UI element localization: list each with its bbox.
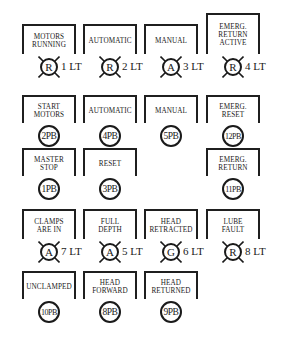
pushbutton[interactable]: 5PB <box>160 125 182 147</box>
pushbutton[interactable]: 4PB <box>99 125 121 147</box>
nameplate-label: CLAMPS ARE IN <box>34 218 63 234</box>
nameplate-frame: EMERG. RETURN ACTIVE <box>206 13 260 54</box>
pushbutton[interactable]: 10PB <box>38 301 60 323</box>
nameplate-label: FULL DEPTH <box>98 218 122 234</box>
pushbutton-tag: 1PB <box>42 184 57 194</box>
nameplate-label: MASTER STOP <box>34 156 64 172</box>
pushbutton[interactable]: 8PB <box>99 301 121 323</box>
nameplate-label: MOTORS RUNNING <box>32 33 66 49</box>
lamp-color-letter: G <box>160 241 182 263</box>
pushbutton[interactable]: 1PB <box>38 178 60 200</box>
lamp-tag: 6 LT <box>183 245 204 257</box>
pushbutton-tag: 4PB <box>103 131 118 141</box>
lamp-color-letter: R <box>38 56 60 78</box>
nameplate-label: HEAD RETRACTED <box>149 218 192 234</box>
lamp-tag: 5 LT <box>122 245 143 257</box>
lamp-color-letter: R <box>99 56 121 78</box>
nameplate-frame: HEAD FORWARD <box>83 271 137 299</box>
nameplate-label: RESET <box>99 160 121 168</box>
pushbutton-tag: 9PB <box>164 307 179 317</box>
nameplate-frame: MANUAL <box>144 24 198 54</box>
nameplate-frame: EMERG. RESET <box>206 95 260 123</box>
nameplate-frame: EMERG. RETURN <box>206 148 260 176</box>
nameplate-label: HEAD RETURNED <box>151 279 190 295</box>
pilot-lamp-icon: G <box>160 241 182 263</box>
pushbutton[interactable]: 9PB <box>160 301 182 323</box>
pushbutton-tag: 8PB <box>103 307 118 317</box>
nameplate-frame: START MOTORS <box>22 95 76 123</box>
pilot-lamp-icon: A <box>160 56 182 78</box>
nameplate-label: AUTOMATIC <box>88 37 131 45</box>
pushbutton[interactable]: 2PB <box>38 125 60 147</box>
nameplate-frame: MOTORS RUNNING <box>22 24 76 54</box>
nameplate-frame: MANUAL <box>144 95 198 123</box>
lamp-color-letter: R <box>222 241 244 263</box>
nameplate-frame: CLAMPS ARE IN <box>22 209 76 239</box>
nameplate-frame: HEAD RETRACTED <box>144 209 198 239</box>
pushbutton-tag: 3PB <box>103 184 118 194</box>
nameplate-label: EMERG. RETURN <box>218 156 247 172</box>
nameplate-label: HEAD FORWARD <box>92 279 127 295</box>
nameplate-frame: FULL DEPTH <box>83 209 137 239</box>
nameplate-frame: HEAD RETURNED <box>144 271 198 299</box>
pushbutton-tag: 5PB <box>164 131 179 141</box>
pilot-lamp-icon: R <box>99 56 121 78</box>
nameplate-label: LUBE FAULT <box>222 218 244 234</box>
nameplate-label: MANUAL <box>155 107 187 115</box>
lamp-color-letter: A <box>160 56 182 78</box>
nameplate-label: AUTOMATIC <box>88 107 131 115</box>
pilot-lamp-icon: R <box>222 56 244 78</box>
pilot-lamp-icon: A <box>99 241 121 263</box>
nameplate-frame: UNCLAMPED <box>22 271 76 299</box>
pushbutton-tag: 12PB <box>225 132 241 141</box>
lamp-color-letter: A <box>99 241 121 263</box>
nameplate-label: START MOTORS <box>34 103 64 119</box>
nameplate-frame: LUBE FAULT <box>206 209 260 239</box>
pushbutton-tag: 2PB <box>42 131 57 141</box>
nameplate-frame: RESET <box>83 148 137 176</box>
pilot-lamp-icon: R <box>222 241 244 263</box>
lamp-tag: 2 LT <box>122 60 143 72</box>
pushbutton[interactable]: 11PB <box>222 178 244 200</box>
pilot-lamp-icon: R <box>38 56 60 78</box>
lamp-color-letter: A <box>38 241 60 263</box>
pushbutton[interactable]: 3PB <box>99 178 121 200</box>
nameplate-label: MANUAL <box>155 37 187 45</box>
nameplate-label: EMERG. RESET <box>219 103 247 119</box>
lamp-tag: 3 LT <box>183 60 204 72</box>
nameplate-label: EMERG. RETURN ACTIVE <box>218 23 247 47</box>
nameplate-label: UNCLAMPED <box>26 283 72 291</box>
pushbutton[interactable]: 12PB <box>222 125 244 147</box>
nameplate-frame: AUTOMATIC <box>83 24 137 54</box>
nameplate-frame: AUTOMATIC <box>83 95 137 123</box>
nameplate-frame: MASTER STOP <box>22 148 76 176</box>
pushbutton-tag: 10PB <box>41 308 57 317</box>
lamp-tag: 7 LT <box>61 245 82 257</box>
lamp-tag: 1 LT <box>61 60 82 72</box>
lamp-tag: 8 LT <box>245 245 266 257</box>
pilot-lamp-icon: A <box>38 241 60 263</box>
pushbutton-tag: 11PB <box>225 185 241 194</box>
lamp-color-letter: R <box>222 56 244 78</box>
lamp-tag: 4 LT <box>245 60 266 72</box>
